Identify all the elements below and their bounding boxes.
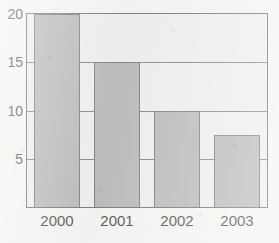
bar-2003 [214, 135, 260, 207]
y-tick-label: 5 [15, 151, 23, 167]
bar-2000 [34, 14, 80, 207]
bar-2002 [154, 111, 200, 208]
bar-2001 [94, 62, 140, 207]
x-tick-label: 2001 [100, 212, 133, 229]
y-tick-label: 20 [7, 6, 23, 22]
x-tick-label: 2003 [220, 212, 253, 229]
plot-area: 5101520 2000200120022003 [26, 13, 268, 208]
x-tick-label: 2000 [40, 212, 73, 229]
y-tick-label: 15 [7, 54, 23, 70]
cropped-title-remnant [0, 0, 279, 8]
chart-page: 5101520 2000200120022003 [0, 0, 279, 243]
x-tick-label: 2002 [160, 212, 193, 229]
y-tick-label: 10 [7, 103, 23, 119]
